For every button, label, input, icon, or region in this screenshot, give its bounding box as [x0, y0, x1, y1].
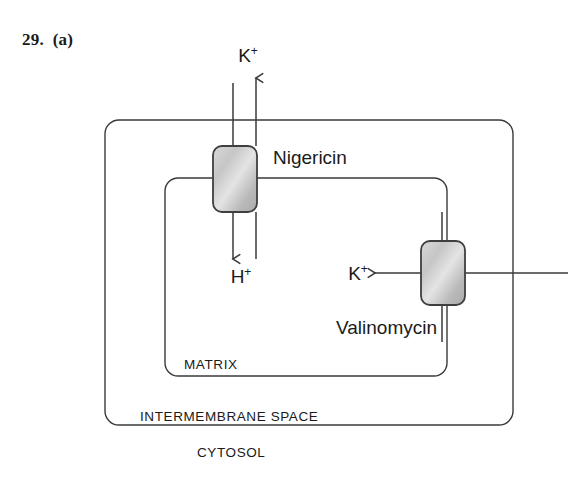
intermembrane-space-label: INTERMEMBRANE SPACE: [140, 409, 318, 424]
h-ion-label: H+: [231, 265, 252, 287]
membrane-transport-diagram: Nigericin H+ K+ K+ Valinomycin MATRIX IN…: [0, 0, 568, 482]
nigericin-label: Nigericin: [273, 147, 347, 168]
nigericin-carrier-body: [213, 146, 257, 212]
inner-membrane-boundary: [165, 178, 447, 376]
matrix-label: MATRIX: [184, 357, 238, 372]
k-ion-top-label: K+: [238, 44, 258, 66]
valinomycin-carrier-body: [421, 241, 465, 305]
valinomycin-label: Valinomycin: [336, 317, 437, 338]
k-ion-right-label: K+: [348, 262, 368, 284]
cytosol-label: CYTOSOL: [197, 445, 265, 460]
figure-root: 29. (a): [0, 0, 568, 482]
